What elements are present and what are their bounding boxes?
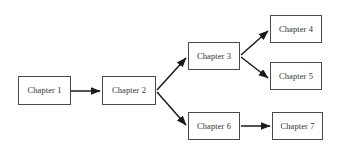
edge-ch2-to-ch6 — [157, 92, 186, 125]
node-chapter-5[interactable]: Chapter 5 — [270, 62, 322, 90]
node-chapter-3[interactable]: Chapter 3 — [188, 42, 240, 70]
node-chapter-2[interactable]: Chapter 2 — [102, 76, 156, 105]
edge-ch2-to-ch3 — [157, 58, 186, 90]
node-label: Chapter 4 — [279, 24, 313, 33]
node-label: Chapter 3 — [197, 51, 231, 60]
node-label: Chapter 6 — [197, 121, 231, 130]
chapter-flowchart: Chapter 1 Chapter 2 Chapter 3 Chapter 4 … — [0, 0, 339, 152]
node-label: Chapter 7 — [280, 121, 314, 130]
node-label: Chapter 2 — [112, 86, 146, 95]
node-label: Chapter 5 — [279, 71, 313, 80]
node-chapter-1[interactable]: Chapter 1 — [18, 76, 71, 105]
node-label: Chapter 1 — [27, 86, 61, 95]
edge-ch3-to-ch4 — [241, 31, 268, 55]
edge-group — [71, 31, 270, 126]
node-chapter-7[interactable]: Chapter 7 — [272, 112, 323, 140]
node-chapter-6[interactable]: Chapter 6 — [188, 112, 240, 140]
edge-ch3-to-ch5 — [241, 57, 268, 78]
node-chapter-4[interactable]: Chapter 4 — [270, 15, 322, 43]
